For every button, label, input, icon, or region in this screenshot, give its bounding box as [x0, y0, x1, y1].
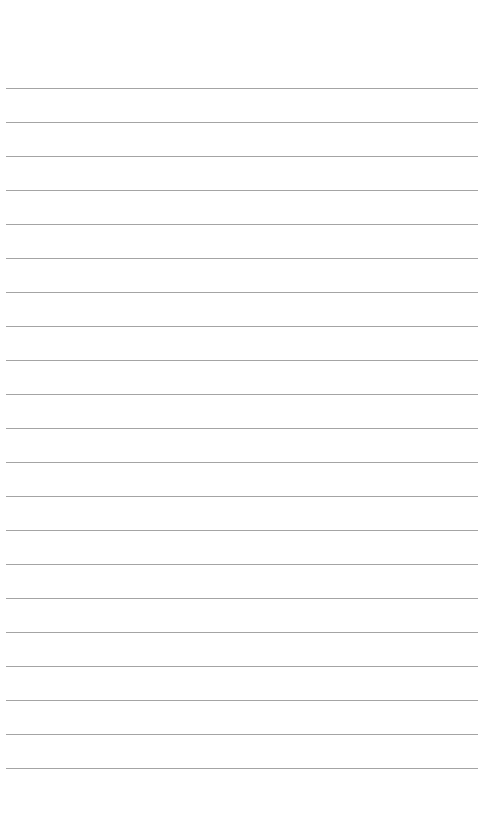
writing-line-row[interactable] — [6, 293, 478, 326]
writing-line-row[interactable] — [6, 225, 478, 258]
ruled-lines-area — [0, 0, 502, 834]
writing-line-row[interactable] — [6, 633, 478, 666]
writing-line-row[interactable] — [6, 667, 478, 700]
writing-line-row[interactable] — [6, 89, 478, 122]
writing-line-row[interactable] — [6, 599, 478, 632]
page-bottom-margin — [0, 776, 502, 834]
writing-line-row[interactable] — [6, 327, 478, 360]
writing-line-row[interactable] — [6, 735, 478, 768]
writing-line-row[interactable] — [6, 565, 478, 598]
rule-line — [6, 768, 478, 769]
writing-line-row[interactable] — [6, 361, 478, 394]
writing-line-row[interactable] — [6, 191, 478, 224]
writing-line-row[interactable] — [6, 395, 478, 428]
writing-line-row[interactable] — [6, 259, 478, 292]
writing-line-row[interactable] — [6, 157, 478, 190]
writing-line-row[interactable] — [6, 463, 478, 496]
writing-line-row[interactable] — [6, 497, 478, 530]
writing-line-row[interactable] — [6, 701, 478, 734]
writing-line-row[interactable] — [6, 55, 478, 88]
notepad-page — [0, 0, 502, 834]
writing-line-row[interactable] — [6, 123, 478, 156]
writing-line-row[interactable] — [6, 531, 478, 564]
writing-line-row[interactable] — [6, 429, 478, 462]
